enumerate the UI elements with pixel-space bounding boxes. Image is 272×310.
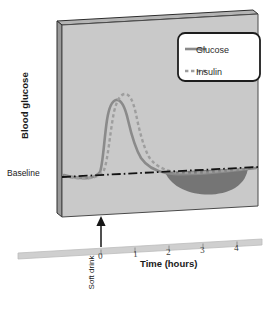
slab-left-edge <box>57 21 62 217</box>
soft-drink-arrow <box>96 216 105 247</box>
x-tick-label-0: 0 <box>98 251 103 261</box>
x-axis-label: Time (hours) <box>140 258 197 269</box>
x-tick-label-4: 4 <box>234 243 239 253</box>
x-tick-label-2: 2 <box>166 247 171 257</box>
y-axis-label: Blood glucose <box>19 56 30 156</box>
x-tick-label-3: 3 <box>200 245 205 255</box>
x-axis-bar <box>18 239 262 259</box>
soft-drink-label: Soft drink <box>87 242 96 304</box>
legend-label-glucose: Glucose <box>196 45 229 55</box>
legend-label-insulin: Insulin <box>196 67 222 77</box>
baseline-label: Baseline <box>7 168 40 178</box>
x-tick-label-1: 1 <box>133 249 138 259</box>
figure-container: Blood glucose Baseline Glucose Insulin 0… <box>0 0 272 310</box>
blood-glucose-chart <box>0 0 272 310</box>
